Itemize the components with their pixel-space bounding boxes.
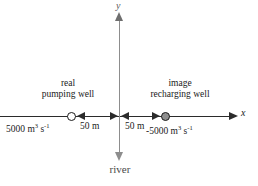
real-well-flow-rate: 5000 m3 s-1 — [6, 124, 50, 135]
dimension-arrow-left-inner-icon — [121, 112, 129, 120]
image-well-flow-rate: -5000 m3 s-1 — [146, 126, 193, 137]
image-well-caption-line2: recharging well — [128, 89, 232, 100]
y-axis-line — [119, 18, 120, 158]
x-axis-line — [0, 116, 236, 117]
x-axis-arrowhead-icon — [229, 112, 238, 120]
y-axis-arrowhead-up-icon — [115, 12, 123, 21]
real-well-unit-m: m — [27, 124, 34, 134]
image-well-unit-m: m — [171, 126, 178, 136]
y-axis-label: y — [116, 1, 120, 11]
real-well-caption-line1: real — [22, 78, 114, 89]
real-well-unit-m-exponent: 3 — [35, 122, 38, 129]
real-well-caption-line2: pumping well — [22, 89, 114, 100]
real-well-caption: real pumping well — [22, 78, 114, 100]
dimension-arrow-right-inner-icon — [110, 112, 118, 120]
image-well-caption: image recharging well — [128, 78, 232, 100]
x-axis-label: x — [241, 108, 245, 118]
river-label: river — [90, 163, 150, 176]
image-well-distance-label: 50 m — [125, 121, 144, 132]
image-well-flow-rate-value: -5000 — [146, 126, 168, 136]
real-well-unit-s-exponent: -1 — [44, 122, 49, 129]
dimension-arrow-right-outer-icon — [152, 112, 160, 120]
image-recharging-well-marker — [161, 112, 170, 121]
real-pumping-well-marker — [67, 112, 76, 121]
river-flow-arrowhead-down-icon — [115, 152, 123, 161]
diagram-canvas: x y real pumping well image recharging w… — [0, 0, 258, 186]
real-well-flow-rate-value: 5000 — [6, 124, 25, 134]
image-well-unit-m-exponent: 3 — [178, 124, 181, 131]
real-well-distance-label: 50 m — [80, 121, 99, 132]
image-well-unit-s-exponent: -1 — [187, 124, 192, 131]
dimension-arrow-left-outer-icon — [77, 112, 85, 120]
image-well-caption-line1: image — [128, 78, 232, 89]
